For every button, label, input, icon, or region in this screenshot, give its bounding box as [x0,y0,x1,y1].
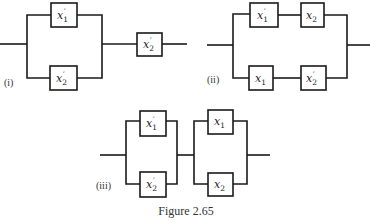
wire [126,121,140,155]
switch-box-x1: x1 [208,110,233,134]
switch-box-x2: x2 [208,173,233,196]
figure-caption: Figure 2.65 [158,204,213,218]
circuit-i: x1′ x2′ x2′ (i) [0,3,187,90]
switch-box-x2-prime: x2′ [301,66,326,90]
figure-canvas: x1′ x2′ x2′ (i) x1′ x2 x1 [0,0,370,221]
switch-box-x2-prime-series: x2′ [137,33,162,56]
wire [27,15,51,44]
wire [233,45,249,78]
wire [194,121,208,155]
switch-box-x2-prime: x2′ [50,66,77,90]
wire [233,14,250,45]
wire [166,121,177,184]
wire [126,155,140,184]
diagram-label-i: (i) [4,77,13,89]
wire [27,44,50,78]
switch-box-x1-prime: x1′ [250,3,278,27]
wire [233,121,247,184]
switch-box-x2-prime: x2′ [140,172,166,197]
diagram-label-iii: (iii) [96,180,111,192]
wire [324,15,347,78]
switch-box-x1-prime: x1′ [51,3,77,27]
diagram-label-ii: (ii) [207,74,219,86]
switch-box-x2: x2 [301,3,324,27]
wire [77,15,102,78]
circuit-ii: x1′ x2 x1 x2′ (ii) [207,3,370,90]
switch-box-x1-prime: x1′ [140,111,166,136]
switch-box-x1: x1 [249,66,273,90]
circuit-iii: x1′ x2′ x1 x2 (iii) [96,110,270,197]
wire [194,155,208,184]
